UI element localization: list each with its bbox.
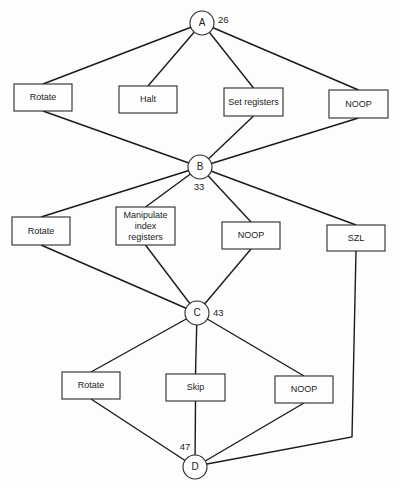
operation-label: NOOP bbox=[238, 230, 265, 240]
operation-box-set-registers: Set registers bbox=[224, 88, 283, 116]
operation-label: Halt bbox=[140, 94, 157, 104]
operation-label: Manipulate bbox=[123, 210, 167, 220]
operation-label: Skip bbox=[187, 382, 205, 392]
operation-box-noop: NOOP bbox=[275, 376, 333, 403]
node-label: D bbox=[191, 461, 198, 472]
edge-op-to-B bbox=[200, 118, 359, 167]
operation-label: Rotate bbox=[30, 92, 57, 102]
operation-label: index bbox=[135, 221, 157, 231]
operation-box-halt: Halt bbox=[119, 86, 177, 113]
operation-box-noop: NOOP bbox=[329, 90, 388, 118]
operation-label: Rotate bbox=[28, 226, 55, 236]
node-label: A bbox=[199, 17, 206, 28]
operation-label: NOOP bbox=[345, 99, 372, 109]
operation-box-skip: Skip bbox=[166, 374, 225, 401]
node-annotation: 33 bbox=[194, 181, 205, 192]
program-flow-diagram: RotateHaltSet registersNOOPRotateManipul… bbox=[0, 0, 400, 488]
edge-C-to-op bbox=[91, 313, 197, 372]
edge-op-to-C bbox=[41, 245, 197, 313]
edge-op-to-C bbox=[146, 245, 198, 313]
edge-op-to-C bbox=[197, 249, 251, 313]
operation-label: Rotate bbox=[78, 380, 105, 390]
node-annotation: 47 bbox=[180, 441, 191, 452]
edge-op-to-D bbox=[207, 251, 356, 464]
edge-op-to-B bbox=[43, 111, 200, 167]
operation-label: NOOP bbox=[291, 384, 318, 394]
edge-op-to-D bbox=[91, 399, 195, 467]
operation-label: SZL bbox=[348, 233, 365, 243]
state-nodes: A26B33C43D47 bbox=[180, 11, 229, 479]
edge-A-to-op bbox=[43, 23, 202, 84]
edge-C-to-op bbox=[197, 313, 304, 376]
operation-boxes: RotateHaltSet registersNOOPRotateManipul… bbox=[12, 84, 388, 403]
node-label: B bbox=[197, 161, 204, 172]
node-b: B33 bbox=[188, 155, 212, 192]
operation-box-rotate: Rotate bbox=[12, 217, 70, 245]
operation-box-szl: SZL bbox=[327, 225, 385, 251]
node-c: C43 bbox=[185, 301, 224, 325]
operation-label: registers bbox=[128, 232, 163, 242]
operation-box-rotate: Rotate bbox=[14, 84, 72, 111]
node-annotation: 43 bbox=[213, 307, 224, 318]
operation-box-noop: NOOP bbox=[222, 222, 280, 249]
operation-box-rotate: Rotate bbox=[62, 372, 120, 399]
operation-box-manipulate-index-registers: Manipulateindexregisters bbox=[116, 207, 175, 245]
edge-A-to-op bbox=[202, 23, 359, 90]
edge-B-to-op bbox=[200, 167, 356, 225]
node-annotation: 26 bbox=[218, 14, 229, 25]
operation-label: Set registers bbox=[228, 97, 279, 107]
node-label: C bbox=[193, 307, 200, 318]
edge-op-to-D bbox=[195, 403, 304, 467]
